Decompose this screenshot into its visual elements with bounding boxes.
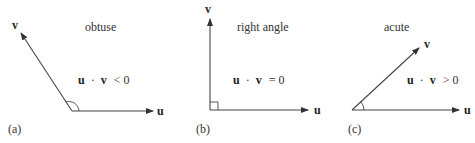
vector-v-arrow	[21, 33, 72, 111]
dot-product-angle-diagram: v u obtuse u · v < 0 (a) v u right angle…	[0, 0, 475, 143]
dot-product-equation: u · v > 0	[407, 70, 458, 87]
panel-obtuse: v u obtuse u · v < 0 (a)	[8, 18, 164, 136]
vector-u-label: u	[157, 104, 164, 118]
panel-right-angle: v u right angle u · v = 0 (b)	[196, 2, 321, 136]
obtuse-angle-arc-icon	[66, 102, 79, 111]
panel-acute: v u acute u · v > 0 (c)	[348, 20, 471, 136]
angle-caption: right angle	[237, 20, 289, 34]
vector-v-label: v	[424, 37, 430, 51]
angle-caption: obtuse	[85, 20, 116, 34]
dot-product-equation: u · v < 0	[78, 70, 129, 87]
panel-label: (b)	[196, 122, 210, 136]
right-angle-square-icon	[210, 102, 218, 110]
dot-product-equation: u · v = 0	[233, 70, 284, 87]
panel-label: (a)	[8, 122, 21, 136]
vector-u-label: u	[464, 103, 471, 117]
angle-caption: acute	[384, 20, 409, 34]
panel-label: (c)	[348, 122, 361, 136]
vector-v-label: v	[12, 18, 18, 32]
vector-u-label: u	[314, 103, 321, 117]
acute-angle-arc-icon	[361, 102, 364, 110]
vector-v-label: v	[205, 2, 211, 16]
